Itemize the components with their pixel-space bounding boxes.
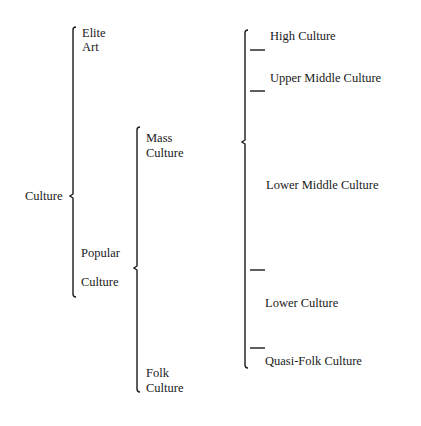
node-popular-culture-line2: Culture bbox=[81, 275, 119, 290]
node-popular-culture-line1: Popular bbox=[81, 246, 120, 261]
bracket-mass-culture bbox=[242, 30, 248, 368]
node-lower-middle-culture: Lower Middle Culture bbox=[266, 178, 378, 193]
bracket-popular-culture bbox=[134, 127, 140, 392]
node-quasi-folk-culture: Quasi-Folk Culture bbox=[265, 354, 362, 369]
node-upper-middle-culture: Upper Middle Culture bbox=[270, 71, 381, 86]
node-elite-art-line1: Elite bbox=[82, 26, 106, 41]
node-lower-culture: Lower Culture bbox=[265, 296, 338, 311]
node-folk-culture-line2: Culture bbox=[146, 381, 184, 396]
node-elite-art-line2: Art bbox=[82, 40, 99, 55]
node-mass-culture-line2: Culture bbox=[146, 146, 184, 161]
node-high-culture: High Culture bbox=[270, 29, 336, 44]
node-culture: Culture bbox=[25, 189, 63, 204]
node-mass-culture-line1: Mass bbox=[146, 131, 172, 146]
bracket-culture bbox=[70, 27, 76, 297]
node-folk-culture-line1: Folk bbox=[146, 366, 169, 381]
